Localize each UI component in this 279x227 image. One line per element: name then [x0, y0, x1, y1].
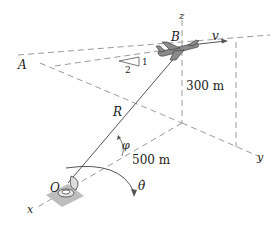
velocity-arrowhead — [221, 39, 228, 44]
axis-x-label: x — [27, 204, 33, 215]
flight-path-line — [18, 35, 270, 55]
axis-y-label: y — [257, 152, 263, 163]
slope-run-label: 2 — [125, 66, 131, 75]
point-a-label: A — [18, 59, 27, 71]
elevation-angle-label: φ — [122, 140, 130, 151]
point-b-label: B — [171, 31, 180, 43]
theta-dot-arrowhead — [131, 189, 137, 197]
radar-pivot — [62, 190, 70, 194]
height-dimension: 300 m — [186, 80, 224, 92]
radar-aircraft-diagram: z B v A 2 1 300 m R φ 500 m θ̇ O x y — [0, 0, 279, 227]
slope-rise-label: 1 — [142, 58, 148, 67]
velocity-label: v — [212, 30, 219, 42]
horizontal-dimension: 500 m — [132, 154, 170, 166]
projection-line — [55, 50, 165, 66]
ground-line-a — [40, 63, 182, 123]
axis-z-label: z — [179, 11, 184, 21]
point-o-label: O — [50, 182, 60, 194]
azimuth-rate-label: θ̇ — [138, 180, 145, 192]
range-label: R — [113, 106, 122, 118]
y-axis — [182, 123, 258, 156]
